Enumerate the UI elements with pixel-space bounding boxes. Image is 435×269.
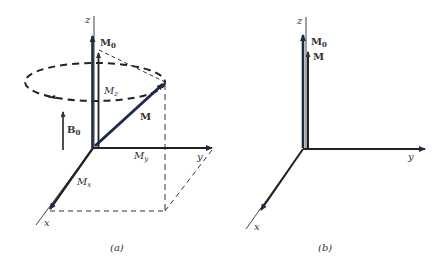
x-axis-label: x xyxy=(44,217,50,228)
m-label-b: M xyxy=(313,51,324,62)
my-label: My xyxy=(133,150,149,163)
mx-label: Mx xyxy=(76,176,91,189)
b0-label: B0 xyxy=(67,124,80,137)
precession-ellipse xyxy=(25,63,165,101)
diagram-canvas: z M0 Mz M B0 y My Mx x (a) z xyxy=(0,0,435,269)
z-axis-label: z xyxy=(84,14,91,25)
x-axis-label-b: x xyxy=(254,221,260,232)
m0-label-b: M0 xyxy=(311,36,327,49)
m0-label: M0 xyxy=(100,37,116,50)
caption-b: (b) xyxy=(318,242,332,253)
projection-line-top xyxy=(99,50,165,82)
panel-a: z M0 Mz M B0 y My Mx x (a) xyxy=(25,14,212,253)
panel-b: z M0 M y x (b) xyxy=(246,15,425,253)
projection-line-y xyxy=(165,150,212,211)
y-axis-label-b: y xyxy=(407,151,414,162)
m-label: M xyxy=(140,111,151,122)
x-vector-b xyxy=(261,149,303,210)
caption-a: (a) xyxy=(110,242,124,253)
z-axis-label-b: z xyxy=(296,15,303,26)
y-axis-label: y xyxy=(196,151,203,162)
mz-label: Mz xyxy=(103,85,118,98)
